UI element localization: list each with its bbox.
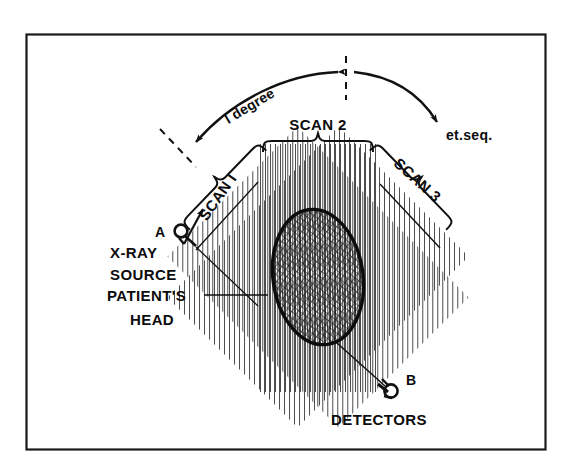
- patients-label: PATIENT'S: [107, 287, 186, 304]
- head-label: HEAD: [130, 311, 174, 328]
- source-letter-label: A: [155, 224, 165, 240]
- scan2-label: SCAN 2: [289, 116, 346, 133]
- detector-letter-label: B: [406, 372, 416, 388]
- xray-label: X-RAY: [110, 244, 157, 261]
- ct-scanner-diagram: l degree et.seq. SCAN 2 SCAN I SCAN 3 A …: [0, 0, 570, 467]
- et-seq-label: et.seq.: [446, 127, 492, 143]
- source-label: SOURCE: [110, 266, 177, 283]
- detectors-label: DETECTORS: [331, 411, 427, 428]
- figure-root: l degree et.seq. SCAN 2 SCAN I SCAN 3 A …: [0, 0, 570, 467]
